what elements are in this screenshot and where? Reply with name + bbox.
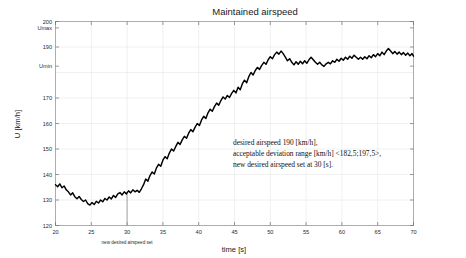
x-tick-label: 20 bbox=[52, 229, 58, 235]
x-tick-label: 60 bbox=[339, 229, 345, 235]
x-axis-label: time [s] bbox=[222, 245, 246, 254]
chart-title: Maintained airspeed bbox=[212, 6, 298, 17]
y-tick-label: 170 bbox=[43, 95, 52, 101]
y-tick-label: 190 bbox=[43, 44, 52, 50]
y-axis-label: U [km/h] bbox=[13, 110, 22, 138]
airspeed-line-chart: Maintained airspeed 20253035404550556065… bbox=[0, 0, 466, 258]
x-tick-label: 45 bbox=[231, 229, 237, 235]
x-tick-label: 35 bbox=[160, 229, 166, 235]
y-tick-label: 130 bbox=[43, 197, 52, 203]
x-tick-label: 40 bbox=[196, 229, 202, 235]
y-tick-label: 120 bbox=[43, 223, 52, 229]
y-tick-label: 160 bbox=[43, 121, 52, 127]
event-marker-label: new desired airspeed set bbox=[102, 240, 154, 245]
y-tick-label: Umin bbox=[39, 63, 52, 69]
x-tick-label: 55 bbox=[303, 229, 309, 235]
x-tick-label: 25 bbox=[88, 229, 94, 235]
chart-figure: Maintained airspeed 20253035404550556065… bbox=[0, 0, 466, 258]
x-tick-label: 70 bbox=[410, 229, 416, 235]
annotation-line-3: new desired airspeed set at 30 [s]. bbox=[233, 160, 333, 169]
figure-background bbox=[0, 0, 466, 258]
y-tick-label: 200 bbox=[43, 19, 52, 25]
x-tick-label: 50 bbox=[267, 229, 273, 235]
x-tick-label: 65 bbox=[375, 229, 381, 235]
x-tick-label: 30 bbox=[124, 229, 130, 235]
y-tick-label: 140 bbox=[43, 172, 52, 178]
y-tick-label: Umax bbox=[37, 25, 52, 31]
annotation-line-1: desired airspeed 190 [km/h], bbox=[233, 138, 318, 147]
annotation-line-2: acceptable deviation range [km/h] <182,5… bbox=[233, 149, 381, 158]
y-tick-label: 150 bbox=[43, 146, 52, 152]
